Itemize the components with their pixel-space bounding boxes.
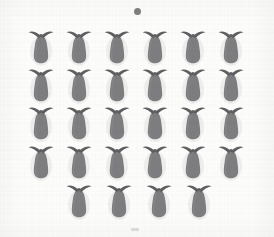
motif-glyph — [182, 182, 216, 220]
motif-cap — [229, 149, 233, 152]
motif-wing-right — [232, 108, 244, 115]
motif-wing-left — [219, 32, 231, 39]
motif-glyph — [100, 66, 134, 104]
motif-wing-right — [156, 70, 168, 77]
motif-wing-right — [42, 32, 54, 39]
bottom-center-smudge-mark — [131, 228, 139, 231]
motif-wing-left — [105, 32, 117, 39]
motif-wing-left — [219, 70, 231, 77]
motif-cap — [153, 34, 157, 37]
motif-glyph — [24, 143, 58, 181]
motif-glyph — [176, 66, 210, 104]
motif-wing-left — [29, 108, 41, 115]
motif-wing-right — [200, 186, 212, 193]
motif-cap — [153, 72, 157, 75]
motif-r3c4 — [138, 104, 172, 142]
motif-cap — [39, 110, 43, 113]
motif-wing-left — [67, 70, 79, 77]
motif-r5c2 — [102, 182, 136, 220]
motif-glyph — [176, 28, 210, 66]
motif-wing-left — [219, 147, 231, 154]
motif-wing-right — [42, 70, 54, 77]
motif-glyph — [100, 143, 134, 181]
motif-r2c2 — [62, 66, 96, 104]
motif-wing-right — [120, 186, 132, 193]
motif-cap — [229, 34, 233, 37]
motif-r1c2 — [62, 28, 96, 66]
motif-cap — [77, 34, 81, 37]
motif-wing-left — [67, 32, 79, 39]
motif-cap — [229, 110, 233, 113]
motif-glyph — [24, 104, 58, 142]
motif-r2c1 — [24, 66, 58, 104]
motif-cap — [77, 110, 81, 113]
motif-glyph — [214, 28, 248, 66]
motif-wing-left — [181, 108, 193, 115]
motif-glyph — [138, 143, 172, 181]
motif-wing-left — [143, 108, 155, 115]
motif-grid — [0, 0, 274, 237]
motif-glyph — [214, 66, 248, 104]
motif-wing-left — [105, 108, 117, 115]
motif-wing-right — [232, 70, 244, 77]
motif-cap — [153, 149, 157, 152]
scan-canvas — [0, 0, 274, 237]
motif-wing-left — [143, 32, 155, 39]
motif-wing-left — [67, 108, 79, 115]
motif-r2c5 — [176, 66, 210, 104]
motif-wing-right — [232, 147, 244, 154]
motif-wing-right — [42, 147, 54, 154]
motif-glyph — [138, 28, 172, 66]
motif-glyph — [176, 143, 210, 181]
motif-wing-left — [107, 186, 119, 193]
motif-wing-left — [29, 147, 41, 154]
motif-wing-left — [67, 147, 79, 154]
motif-cap — [115, 149, 119, 152]
motif-glyph — [102, 182, 136, 220]
motif-cap — [229, 72, 233, 75]
motif-r3c1 — [24, 104, 58, 142]
motif-wing-right — [194, 32, 206, 39]
motif-r4c5 — [176, 143, 210, 181]
motif-wing-right — [232, 32, 244, 39]
motif-wing-right — [118, 70, 130, 77]
motif-wing-right — [156, 147, 168, 154]
motif-wing-left — [181, 70, 193, 77]
motif-cap — [39, 149, 43, 152]
motif-wing-right — [194, 70, 206, 77]
motif-r4c2 — [62, 143, 96, 181]
motif-cap — [77, 72, 81, 75]
motif-r3c3 — [100, 104, 134, 142]
motif-wing-left — [187, 186, 199, 193]
motif-cap — [191, 34, 195, 37]
motif-r2c3 — [100, 66, 134, 104]
motif-wing-right — [42, 108, 54, 115]
motif-cap — [191, 72, 195, 75]
motif-cap — [153, 110, 157, 113]
motif-wing-right — [160, 186, 172, 193]
motif-glyph — [138, 66, 172, 104]
motif-wing-left — [147, 186, 159, 193]
motif-glyph — [100, 28, 134, 66]
motif-r5c3 — [142, 182, 176, 220]
motif-cap — [117, 188, 121, 191]
motif-cap — [157, 188, 161, 191]
motif-wing-right — [156, 32, 168, 39]
motif-wing-right — [118, 147, 130, 154]
motif-glyph — [62, 143, 96, 181]
motif-cap — [191, 149, 195, 152]
motif-r2c6 — [214, 66, 248, 104]
motif-r2c4 — [138, 66, 172, 104]
motif-r4c1 — [24, 143, 58, 181]
motif-wing-left — [181, 147, 193, 154]
motif-glyph — [214, 143, 248, 181]
motif-cap — [115, 72, 119, 75]
motif-wing-left — [105, 147, 117, 154]
motif-glyph — [62, 182, 96, 220]
motif-glyph — [24, 28, 58, 66]
motif-r1c5 — [176, 28, 210, 66]
motif-wing-left — [29, 32, 41, 39]
motif-cap — [115, 34, 119, 37]
motif-wing-right — [80, 147, 92, 154]
motif-glyph — [176, 104, 210, 142]
